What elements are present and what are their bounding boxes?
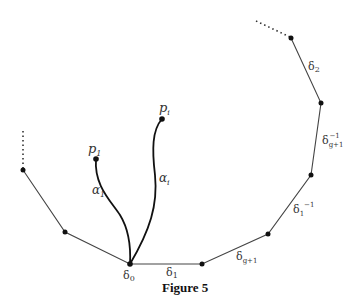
dotted-continuation-right: [256, 21, 290, 37]
point-pi-dot: [159, 116, 165, 122]
vertices: [21, 36, 324, 267]
figure-diagram: p1 pi α1 αi δ0 δ1 δg+1 δ1−1 δg+1−1 δ2 Fi…: [0, 0, 355, 300]
vertex: [309, 173, 314, 178]
arc-alpha-1: [96, 159, 130, 264]
label-delta-0: δ0: [123, 269, 135, 283]
figure-caption: Figure 5: [162, 280, 209, 295]
vertex: [63, 230, 68, 235]
label-pi: pi: [159, 100, 170, 117]
vertex: [319, 101, 324, 106]
arc-alpha-i: [130, 119, 162, 264]
label-delta-2: δ2: [308, 60, 320, 74]
label-delta-1-inverse: δ1−1: [293, 201, 314, 218]
label-delta-1: δ1: [166, 266, 178, 280]
label-alpha-i: αi: [159, 171, 170, 187]
vertex: [200, 262, 205, 267]
label-delta-g1: δg+1: [236, 250, 257, 265]
vertex-base: [127, 261, 133, 267]
vertex: [289, 36, 294, 41]
label-delta-g1-inverse: δg+1−1: [322, 132, 343, 149]
vertex: [21, 168, 26, 173]
label-alpha-1: α1: [92, 183, 105, 199]
label-p1: p1: [88, 141, 101, 158]
vertex: [266, 232, 271, 237]
polygon-path: [23, 38, 321, 264]
